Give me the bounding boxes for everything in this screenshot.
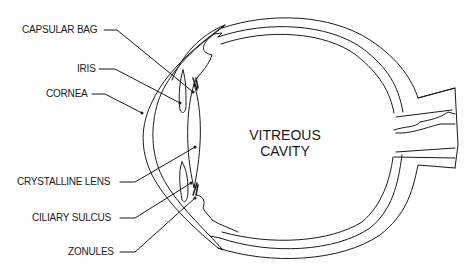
crystalline-lens	[188, 84, 201, 188]
sclera-outer-upper	[222, 18, 455, 98]
eye-cross-section-diagram	[0, 0, 476, 275]
label-iris: IRIS	[77, 64, 96, 74]
leader-zonules	[120, 198, 195, 252]
label-cavity: CAVITY	[240, 143, 330, 159]
leader-cornea	[92, 94, 142, 113]
sclera-inner-lower-2	[222, 157, 393, 240]
iris-upper	[179, 70, 186, 112]
cornea-outer	[143, 25, 225, 248]
label-zonules: ZONULES	[68, 247, 114, 257]
label-vitreous-cavity: VITREOUS CAVITY	[240, 127, 330, 159]
label-vitreous: VITREOUS	[240, 127, 330, 143]
optic-nerve	[394, 88, 458, 168]
sclera-inner-upper-2	[221, 34, 394, 113]
sclera-outer-lower	[218, 165, 455, 259]
label-ciliary-sulcus: CILIARY SULCUS	[32, 213, 111, 223]
cornea-inner	[153, 34, 214, 236]
sclera-inner-upper-1	[218, 27, 403, 112]
label-cornea: CORNEA	[46, 89, 88, 99]
label-crystalline-lens: CRYSTALLINE LENS	[17, 177, 110, 187]
leader-iris	[99, 69, 180, 103]
ciliary-body-upper	[172, 25, 225, 84]
label-capsular-bag: CAPSULAR BAG	[22, 25, 97, 35]
sclera-inner-lower-1	[220, 155, 402, 249]
iris-lower	[180, 162, 188, 202]
